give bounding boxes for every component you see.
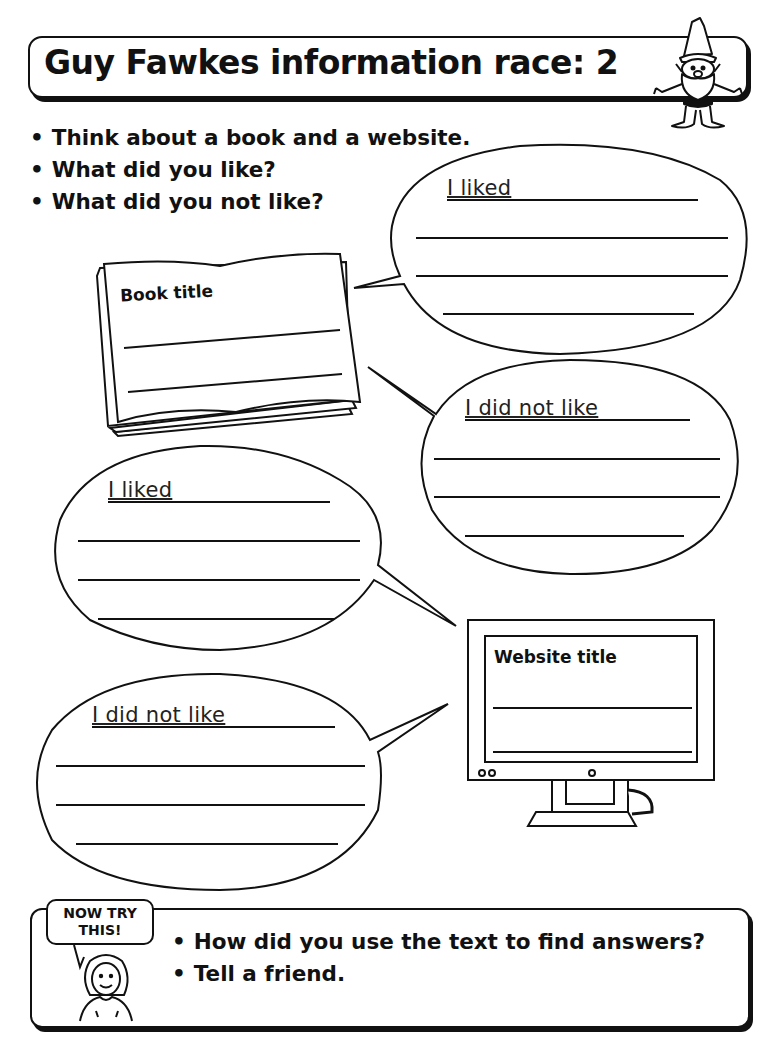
book-not-liked-label: I did not like bbox=[465, 396, 598, 420]
worksheet-drawing bbox=[0, 0, 767, 1049]
girl-icon bbox=[60, 943, 150, 1023]
speech-bubble-book-liked bbox=[354, 145, 747, 354]
website-title-input[interactable] bbox=[493, 680, 696, 708]
badge-line-1: NOW TRY bbox=[48, 905, 152, 922]
speech-bubble-website-liked bbox=[55, 446, 456, 650]
website-not-liked-label: I did not like bbox=[92, 703, 225, 727]
now-try-this-item: How did you use the text to find answers… bbox=[172, 926, 705, 958]
open-book-icon bbox=[97, 254, 360, 436]
speech-bubble-book-not-liked bbox=[368, 360, 738, 574]
website-liked-label: I liked bbox=[108, 478, 172, 502]
book-title-input[interactable] bbox=[124, 318, 344, 344]
website-title-label: Website title bbox=[494, 647, 617, 667]
now-try-this-list: How did you use the text to find answers… bbox=[172, 926, 705, 990]
now-try-this-badge: NOW TRY THIS! bbox=[46, 899, 154, 945]
badge-line-2: THIS! bbox=[48, 922, 152, 939]
book-liked-input-1[interactable] bbox=[447, 178, 701, 202]
now-try-this-item: Tell a friend. bbox=[172, 958, 705, 990]
